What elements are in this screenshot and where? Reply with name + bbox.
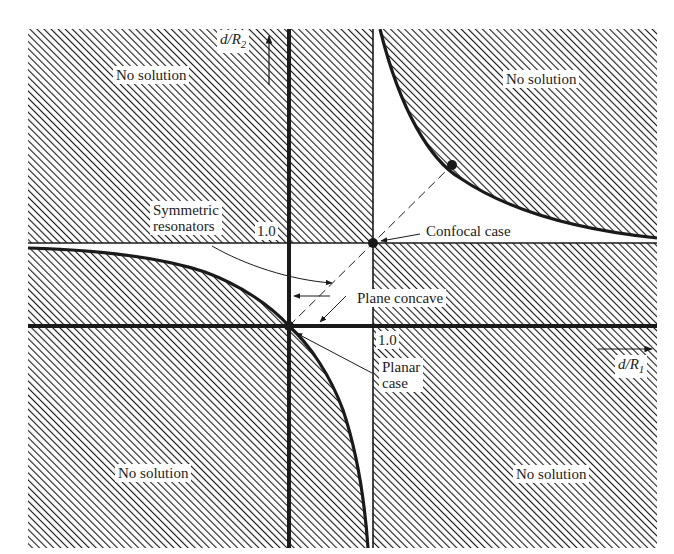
y-axis-label: d/R2 [217,30,249,53]
planar-label-line2: case [382,375,420,391]
y-axis-label-sub: 2 [241,38,247,50]
confocal-case-label: Confocal case [423,222,514,240]
x-axis-label: d/R1 [615,355,647,378]
region-label-bottom-left: No solution [115,464,191,482]
y-tick-label: 1.0 [255,222,278,240]
planar-point [284,321,294,331]
x-axis-label-text: d/R [618,356,639,372]
planar-case-label: Planar case [379,358,423,392]
symmetric-label-line2: resonators [153,218,219,234]
concentric-point [447,160,457,170]
confocal-point [368,238,378,248]
y-axis-label-text: d/R [220,31,241,47]
plane-concave-label: Plane concave [354,289,446,307]
region-label-top-left: No solution [113,66,189,84]
symmetric-resonators-label: Symmetric resonators [150,201,222,235]
symmetric-label-line1: Symmetric [153,202,219,218]
region-label-bottom-right: No solution [513,465,589,483]
x-tick-label: 1.0 [376,331,399,349]
planar-label-line1: Planar [382,359,420,375]
x-axis-label-sub: 1 [639,363,645,375]
region-label-top-right: No solution [503,70,579,88]
